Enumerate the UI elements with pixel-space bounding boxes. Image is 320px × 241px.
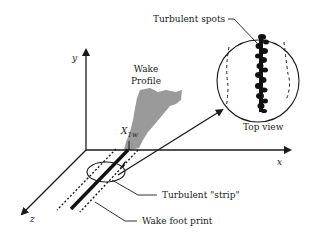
wake-diagram: y x z Wake Profile X1w Turbulent spots T… [0,0,320,241]
top-view-right-boundary [284,42,290,100]
wake-profile-label-line1: Wake [126,64,166,74]
turbulent-spots-leader [228,19,257,43]
wake-footprint-leader [95,202,137,221]
turbulent-strip-leader [112,180,157,195]
turbulent-spots-label: Turbulent spots [153,14,225,24]
wake-profile-label-line2: Profile [126,76,166,86]
x-axis-label: x [277,157,282,167]
diagram-graphics [0,0,320,241]
top-view-circle [217,40,299,122]
z-axis-label: z [30,214,35,224]
y-axis-label: y [72,53,77,63]
wake-footprint-right-edge [80,150,138,212]
wake-foot-print-label: Wake foot print [142,216,212,226]
x1w-subscript: 1w [127,131,137,139]
x1w-label: X1w [121,126,138,140]
turbulent-spots-cluster [255,34,269,113]
top-view-label: Top view [243,122,283,132]
wake-footprint-left-edge [57,149,116,210]
turbulent-strip-label: Turbulent "strip" [162,190,240,200]
top-view-left-boundary [226,47,229,107]
